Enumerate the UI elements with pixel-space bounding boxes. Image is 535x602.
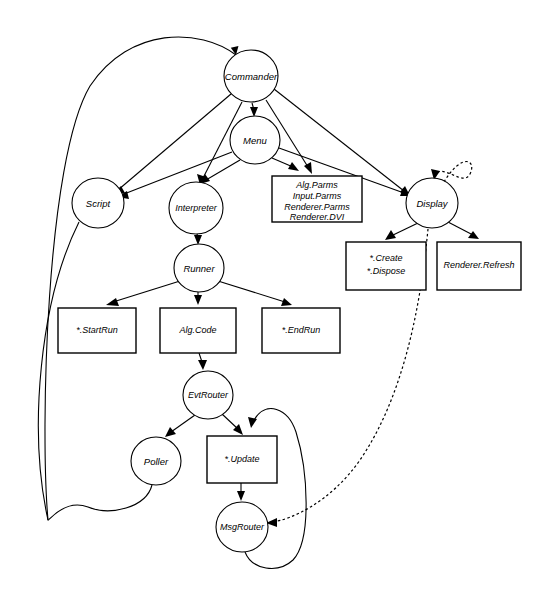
node-interpreter[interactable]: Interpreter	[169, 182, 223, 234]
box-parms-line-3: Renderer.Parms	[284, 202, 350, 212]
node-poller-label: Poller	[144, 456, 169, 467]
diagram-root: Commander Menu Script Interpreter Displa…	[0, 0, 535, 602]
edge-evtrouter-to-update	[222, 414, 243, 435]
edge-commander-to-menu	[250, 103, 258, 117]
edge-display-to-create	[385, 223, 418, 240]
arrowhead	[198, 360, 207, 370]
edge-menu-to-parms	[272, 158, 299, 171]
arrowhead	[304, 162, 312, 174]
edge-update-to-msgrouter	[237, 483, 245, 501]
edge-runner-to-algcode	[194, 292, 202, 305]
node-script[interactable]: Script	[72, 178, 124, 228]
arrowhead	[106, 298, 119, 306]
box-renderer-refresh-line-1: Renderer.Refresh	[443, 260, 514, 270]
edge-commander-to-script	[112, 94, 231, 195]
arrowhead	[385, 230, 396, 240]
edge-poller-to-commander	[48, 485, 152, 520]
node-commander-label: Commander	[225, 71, 278, 82]
node-display[interactable]: Display	[406, 178, 458, 228]
node-menu[interactable]: Menu	[230, 116, 280, 164]
box-endrun-line-1: *.EndRun	[282, 325, 321, 335]
box-parms-line-1: Alg.Parms	[295, 180, 338, 190]
node-commander[interactable]: Commander	[224, 50, 278, 102]
node-msgrouter-label: MsgRouter	[220, 522, 265, 532]
node-layer: Commander Menu Script Interpreter Displa…	[58, 50, 521, 552]
box-create-dispose-line-1: *.Create	[369, 253, 402, 263]
edge-runner-to-endrun	[218, 281, 292, 306]
node-runner[interactable]: Runner	[174, 244, 224, 292]
node-menu-label: Menu	[243, 135, 267, 146]
node-display-label: Display	[416, 198, 448, 209]
node-evtrouter[interactable]: EvtRouter	[183, 371, 233, 419]
arrowhead	[468, 231, 479, 239]
arrowhead	[248, 417, 257, 428]
arrowhead	[194, 295, 202, 305]
node-script-label: Script	[86, 198, 111, 209]
box-update[interactable]: *.Update	[207, 436, 277, 483]
edge-algcode-to-evtrouter	[198, 353, 207, 370]
box-startrun-line-1: *.StartRun	[76, 325, 118, 335]
arrowhead	[281, 298, 292, 306]
box-create-dispose[interactable]: *.Create *.Dispose	[346, 242, 426, 290]
box-algcode[interactable]: Alg.Code	[160, 308, 236, 353]
box-startrun[interactable]: *.StartRun	[58, 308, 136, 353]
box-create-dispose-line-2: *.Dispose	[367, 266, 406, 276]
edge-display-to-refresh	[448, 222, 479, 239]
diagram-canvas: Commander Menu Script Interpreter Displa…	[0, 0, 535, 602]
arrowhead	[165, 427, 176, 437]
node-evtrouter-label: EvtRouter	[188, 390, 229, 400]
node-runner-label: Runner	[183, 263, 215, 274]
node-interpreter-label: Interpreter	[175, 203, 218, 213]
box-algcode-line-1: Alg.Code	[178, 325, 216, 335]
arrowhead	[237, 491, 245, 501]
box-endrun[interactable]: *.EndRun	[262, 308, 340, 353]
box-update-line-1: *.Update	[224, 454, 259, 464]
node-poller[interactable]: Poller	[131, 437, 181, 485]
box-parms-line-4: Renderer.DVI	[290, 212, 345, 222]
edge-interpreter-to-runner	[194, 234, 202, 245]
edge-runner-to-startrun	[106, 281, 180, 306]
node-msgrouter[interactable]: MsgRouter	[216, 502, 268, 552]
edge-evtrouter-to-poller	[165, 415, 195, 437]
box-renderer-refresh[interactable]: Renderer.Refresh	[437, 242, 521, 290]
box-parms[interactable]: Alg.Parms Input.Parms Renderer.Parms Ren…	[272, 176, 362, 222]
box-parms-line-2: Input.Parms	[293, 191, 342, 201]
arrowhead	[288, 162, 299, 171]
